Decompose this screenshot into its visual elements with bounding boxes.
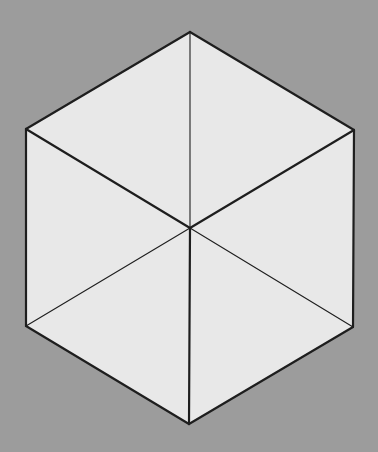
thick-line-center-bottom [189, 228, 190, 424]
thick-line-upper_right-lower_right [353, 130, 354, 327]
hexagon-diagram [0, 0, 378, 452]
